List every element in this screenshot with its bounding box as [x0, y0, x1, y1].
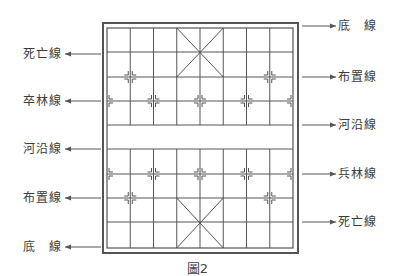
position-marker-icon [241, 168, 245, 172]
position-marker-icon [124, 79, 128, 83]
left-label-base-line: 底 線 [23, 240, 62, 254]
position-marker-icon [109, 168, 113, 172]
position-marker-icon [132, 200, 136, 204]
position-marker-icon [287, 168, 291, 172]
left-label-riverbank-line: 河沿線 [23, 142, 62, 156]
figure-caption: 圖2 [0, 258, 395, 276]
left-label-death-line: 死亡線 [23, 47, 62, 61]
position-marker-icon [194, 168, 198, 172]
position-marker-icon [156, 103, 160, 107]
position-marker-icon [148, 95, 152, 99]
arrowhead-icon [65, 147, 71, 152]
arrowhead-icon [65, 52, 71, 57]
arrowhead-icon [65, 196, 71, 201]
position-marker-icon [148, 176, 152, 180]
arrowhead-icon [330, 220, 336, 225]
position-marker-icon [124, 200, 128, 204]
position-marker-icon [272, 192, 276, 196]
position-marker-icon [194, 95, 198, 99]
position-marker-icon [109, 176, 113, 180]
position-marker-icon [194, 176, 198, 180]
position-marker-icon [249, 95, 253, 99]
position-marker-icon [249, 176, 253, 180]
position-marker-icon [202, 95, 206, 99]
position-marker-icon [249, 103, 253, 107]
position-marker-icon [264, 192, 268, 196]
position-marker-icon [202, 103, 206, 107]
right-label-soldier-rank-line: 兵林線 [338, 167, 377, 181]
position-marker-icon [264, 200, 268, 204]
right-label-death-line: 死亡線 [338, 215, 377, 229]
position-marker-icon [287, 176, 291, 180]
position-marker-icon [132, 71, 136, 75]
arrowhead-icon [330, 75, 336, 80]
position-marker-icon [241, 95, 245, 99]
left-label-deployment-line: 布置線 [23, 191, 62, 205]
position-marker-icon [202, 168, 206, 172]
position-marker-icon [156, 176, 160, 180]
xiangqi-board [0, 0, 395, 276]
position-marker-icon [194, 103, 198, 107]
position-marker-icon [132, 79, 136, 83]
position-marker-icon [249, 168, 253, 172]
right-label-deployment-line: 布置線 [338, 70, 377, 84]
position-marker-icon [272, 71, 276, 75]
right-label-riverbank-line: 河沿線 [338, 118, 377, 132]
position-marker-icon [156, 168, 160, 172]
position-marker-icon [264, 79, 268, 83]
position-marker-icon [272, 79, 276, 83]
position-marker-icon [124, 71, 128, 75]
position-marker-icon [148, 103, 152, 107]
position-marker-icon [264, 71, 268, 75]
position-marker-icon [287, 95, 291, 99]
arrowhead-icon [330, 172, 336, 177]
xiangqi-board-diagram: 死亡線 卒林線 河沿線 布置線 底 線 底 線 布置線 河沿線 兵林線 死亡線 … [0, 0, 395, 276]
position-marker-icon [109, 103, 113, 107]
position-marker-icon [124, 192, 128, 196]
position-marker-icon [287, 103, 291, 107]
position-marker-icon [272, 200, 276, 204]
position-marker-icon [156, 95, 160, 99]
position-marker-icon [241, 176, 245, 180]
right-label-base-line: 底 線 [338, 19, 377, 33]
position-marker-icon [148, 168, 152, 172]
position-marker-icon [202, 176, 206, 180]
left-label-pawn-rank-line: 卒林線 [23, 94, 62, 108]
arrowhead-icon [330, 24, 336, 29]
position-marker-icon [132, 192, 136, 196]
arrowhead-icon [330, 123, 336, 128]
position-marker-icon [241, 103, 245, 107]
position-marker-icon [109, 95, 113, 99]
arrowhead-icon [65, 99, 71, 104]
arrowhead-icon [65, 245, 71, 250]
